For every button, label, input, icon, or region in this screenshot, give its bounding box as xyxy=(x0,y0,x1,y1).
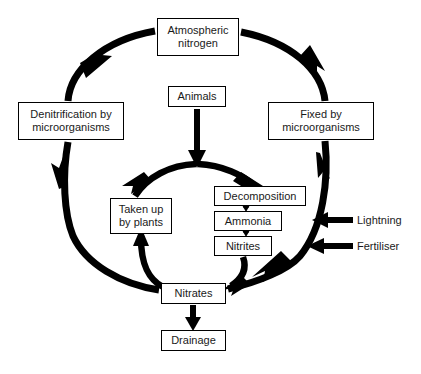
node-label-line1: Fixed by xyxy=(274,108,368,121)
nitrogen-cycle-diagram: Atmospheric nitrogen Denitrification by … xyxy=(0,0,421,374)
node-label-line2: by plants xyxy=(116,216,166,229)
node-nitrates: Nitrates xyxy=(161,283,226,304)
node-label-line1: Taken up xyxy=(116,203,166,216)
node-label-line1: Nitrites xyxy=(220,240,266,253)
node-label-line1: Denitrification by xyxy=(24,108,118,121)
label-lightning: Lightning xyxy=(357,214,402,227)
node-taken-up-by-plants: Taken up by plants xyxy=(110,198,172,234)
node-label-line1: Atmospheric xyxy=(163,24,233,37)
node-label-line2: microorganisms xyxy=(24,121,118,134)
flow-nitrites-to-nitrates xyxy=(222,257,250,296)
flow-denitrification-to-atmospheric xyxy=(68,31,155,101)
node-decomposition: Decomposition xyxy=(214,186,306,206)
node-fixed-by-microorganisms: Fixed by microorganisms xyxy=(268,102,374,140)
node-animals: Animals xyxy=(168,86,226,107)
flow-nitrates-to-drainage xyxy=(185,305,201,331)
flow-animals-to-inner-cycle xyxy=(188,109,206,168)
flow-atmospheric-to-fixed xyxy=(241,32,325,101)
node-label-line2: nitrogen xyxy=(163,37,233,50)
label-fertiliser: Fertiliser xyxy=(357,240,399,253)
node-denitrification: Denitrification by microorganisms xyxy=(18,102,124,140)
flow-inner-top-to-taken-up xyxy=(122,164,196,196)
node-label-line1: Animals xyxy=(174,90,220,103)
node-label-line2: microorganisms xyxy=(274,121,368,134)
node-label-line1: Drainage xyxy=(167,334,220,347)
node-drainage: Drainage xyxy=(161,330,226,351)
node-label-line1: Nitrates xyxy=(167,287,220,300)
node-atmospheric-nitrogen: Atmospheric nitrogen xyxy=(157,18,239,56)
flow-nitrates-to-taken-up xyxy=(133,227,163,287)
node-label-line1: Decomposition xyxy=(220,190,300,203)
node-label-line1: Ammonia xyxy=(220,215,276,228)
arrow-layer xyxy=(0,0,421,374)
node-nitrites: Nitrites xyxy=(214,236,272,256)
node-ammonia: Ammonia xyxy=(214,211,282,231)
